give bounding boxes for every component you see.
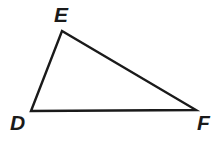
geometry-figure-canvas: E D F <box>0 0 212 151</box>
triangle-def-drawing <box>0 0 212 151</box>
triangle-def-path <box>31 31 196 111</box>
vertex-label-e: E <box>54 4 68 25</box>
vertex-label-d: D <box>10 112 25 133</box>
triangle-outline <box>31 31 196 111</box>
vertex-label-f: F <box>197 112 210 133</box>
